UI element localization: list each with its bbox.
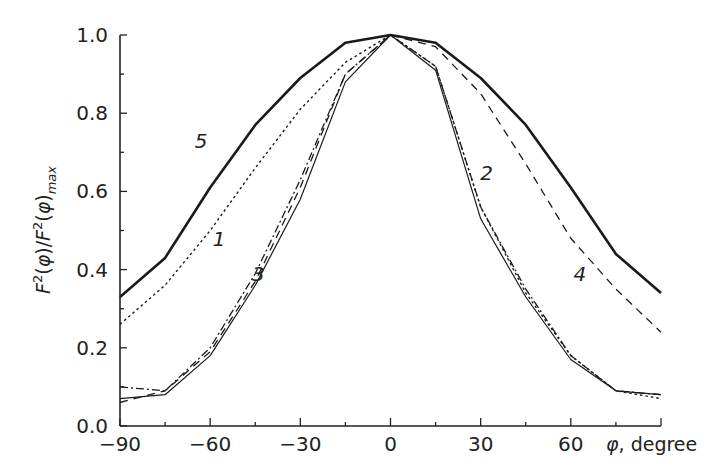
curve-label-4: 4 [573, 262, 586, 286]
x-tick-label: 0 [384, 432, 397, 456]
y-axis-title: F2(φ)/F2(φ)max [30, 166, 59, 294]
curve-4 [120, 35, 661, 403]
chart: 0.00.20.40.60.81.0−90−60−3003060 51324 F… [0, 0, 725, 473]
y-tick-label: 0.8 [76, 101, 108, 125]
curve-label-3: 3 [252, 262, 265, 286]
axes [120, 35, 661, 426]
curve-label-1: 1 [213, 227, 226, 251]
y-tick-label: 1.0 [76, 23, 108, 47]
x-tick-label: −60 [189, 432, 231, 456]
svg-text:φ, degree: φ, degree [606, 433, 697, 455]
svg-text:F2(φ)/F2(φ)max: F2(φ)/F2(φ)max [30, 166, 59, 294]
curve-3 [120, 35, 661, 399]
curve-label-2: 2 [480, 161, 493, 185]
y-tick-label: 0.4 [76, 258, 108, 282]
y-tick-label: 0.2 [76, 336, 108, 360]
curve-5 [120, 35, 661, 297]
x-tick-label: −30 [279, 432, 321, 456]
y-tick-label: 0.6 [76, 179, 108, 203]
x-tick-label: 60 [558, 432, 583, 456]
curve-labels: 51324 [195, 129, 586, 286]
x-tick-label: −90 [99, 432, 141, 456]
x-axis-title: φ, degree [606, 433, 697, 455]
x-tick-label: 30 [468, 432, 493, 456]
curve-label-5: 5 [195, 129, 208, 153]
curve-1 [120, 35, 661, 399]
phi-symbol: φ [606, 433, 619, 455]
series-lines [120, 35, 661, 403]
curve-2 [120, 35, 661, 395]
x-axis-unit: , degree [619, 433, 698, 455]
